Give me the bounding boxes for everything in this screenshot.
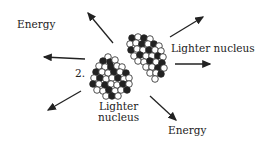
step-number: 2. [75, 68, 85, 79]
arrow-up-left [88, 13, 113, 43]
arrow-left [44, 57, 85, 59]
lighter-nucleus-left [90, 54, 133, 100]
arrow-up-right [170, 17, 203, 37]
energy-label-top: Energy [17, 19, 55, 30]
lighter-nucleus-label-bottom: Lighter nucleus [98, 101, 139, 123]
lighter-nucleus-label-right: Lighter nucleus [171, 43, 255, 54]
lighter-nucleus-right [127, 34, 168, 83]
energy-label-bottom: Energy [168, 125, 206, 136]
arrow-down-left [48, 91, 81, 110]
lighter-nucleus-line2: nucleus [98, 112, 139, 123]
arrow-down-right [150, 96, 176, 120]
